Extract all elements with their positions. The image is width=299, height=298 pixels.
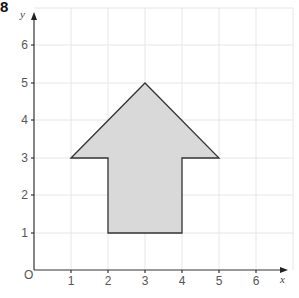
arrow-shape (71, 83, 219, 233)
question-number: 8 (0, 0, 8, 15)
y-tick: 5 (21, 76, 28, 90)
y-tick: 4 (21, 113, 28, 127)
y-tick: 6 (21, 38, 28, 52)
x-axis-label: x (279, 273, 285, 285)
y-tick: 2 (21, 188, 28, 202)
x-tick: 5 (216, 274, 223, 288)
x-tick: 3 (142, 274, 149, 288)
y-tick: 3 (21, 151, 28, 165)
y-arrow-icon (31, 12, 37, 20)
x-tick: 4 (179, 274, 186, 288)
x-tick: 6 (253, 274, 260, 288)
coordinate-grid: 8 y x O 1 2 3 4 5 6 1 2 3 4 5 6 (0, 0, 299, 298)
origin-label: O (24, 268, 33, 282)
y-axis-label: y (19, 8, 25, 20)
y-tick: 1 (21, 226, 28, 240)
x-tick: 1 (68, 274, 75, 288)
x-tick: 2 (105, 274, 112, 288)
